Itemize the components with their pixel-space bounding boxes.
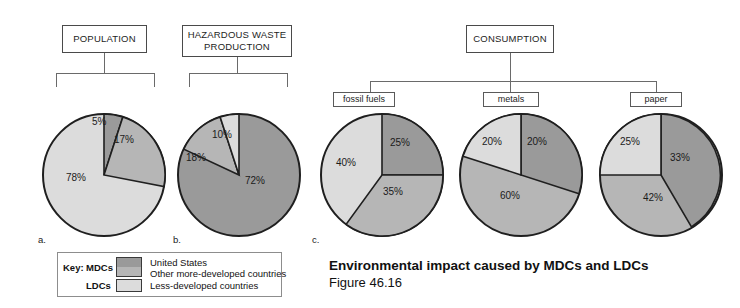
- hazardous-waste-title-box: HAZARDOUS WASTE PRODUCTION: [182, 25, 292, 57]
- pie-population-value-other-mdcs: 17%: [114, 134, 134, 145]
- consumption-drop-fossil: [370, 81, 371, 92]
- population-stem: [104, 53, 105, 73]
- pie-metals-value-other-mdcs: 60%: [500, 190, 520, 201]
- pie-fossil-fuels-svg: [319, 112, 445, 238]
- key-text-united-states: United States: [150, 257, 207, 269]
- key-swatch-ldcs: [116, 279, 142, 292]
- consumption-stem: [510, 53, 511, 81]
- pie-paper-value-us: 33%: [670, 152, 690, 163]
- key-swatch-united-states: [117, 258, 141, 267]
- figure-canvas: POPULATION HAZARDOUS WASTE PRODUCTION CO…: [0, 0, 740, 308]
- subcategory-box-metals: metals: [483, 92, 539, 107]
- key-text-ldcs: Less-developed countries: [150, 280, 258, 292]
- key-swatch-mdcs: [116, 257, 142, 277]
- pie-paper-value-ldcs: 25%: [620, 136, 640, 147]
- consumption-crossbar: [370, 81, 656, 82]
- pie-population-value-us: 5%: [92, 116, 106, 127]
- subcategory-label-fossil-fuels: fossil fuels: [343, 94, 385, 105]
- pie-hazardous-waste-value-other-mdcs: 18%: [186, 152, 206, 163]
- subcategory-label-metals: metals: [498, 94, 525, 105]
- pie-hazardous-waste-svg: [176, 112, 302, 238]
- key-label-ldcs: LDCs: [86, 280, 111, 291]
- pie-chart-metals: [458, 112, 584, 238]
- figure-caption-title: Environmental impact caused by MDCs and …: [329, 258, 649, 273]
- hazardous-waste-title: HAZARDOUS WASTE PRODUCTION: [183, 29, 291, 53]
- pie-metals-svg: [458, 112, 584, 238]
- hazardous-waste-crossbar: [189, 73, 287, 74]
- consumption-drop-metals: [510, 81, 511, 92]
- population-drop-left: [56, 73, 57, 87]
- key-swatch-other-mdcs: [117, 267, 141, 276]
- pie-chart-hazardous-waste: [176, 112, 302, 238]
- pie-chart-paper: [598, 112, 724, 238]
- pie-fossil-fuels-letter: c.: [312, 234, 319, 245]
- pie-population-value-ldcs: 78%: [66, 172, 86, 183]
- key-label-mdcs: MDCs: [86, 262, 113, 273]
- population-title: POPULATION: [73, 33, 136, 45]
- pie-fossil-fuels-value-other-mdcs: 35%: [383, 186, 403, 197]
- consumption-title: CONSUMPTION: [473, 33, 546, 45]
- figure-caption-number: Figure 46.16: [329, 275, 402, 290]
- pie-paper-value-other-mdcs: 42%: [643, 192, 663, 203]
- pie-fossil-fuels-value-ldcs: 40%: [336, 157, 356, 168]
- pie-hazardous-waste-value-us: 72%: [245, 175, 265, 186]
- population-crossbar: [56, 73, 154, 74]
- pie-metals-value-ldcs: 20%: [482, 136, 502, 147]
- hazardous-waste-drop-right: [287, 73, 288, 87]
- pie-hazardous-waste-value-ldcs: 10%: [212, 129, 232, 140]
- subcategory-box-paper: paper: [630, 92, 682, 107]
- pie-chart-population: [41, 112, 167, 238]
- consumption-drop-paper: [656, 81, 657, 92]
- population-title-box: POPULATION: [62, 25, 147, 53]
- subcategory-box-fossil-fuels: fossil fuels: [333, 92, 395, 107]
- pie-fossil-fuels-value-us: 25%: [390, 137, 410, 148]
- pie-hazardous-waste-letter: b.: [173, 234, 181, 245]
- hazardous-waste-drop-left: [189, 73, 190, 87]
- pie-metals-value-us: 20%: [527, 136, 547, 147]
- pie-population-svg: [41, 112, 167, 238]
- subcategory-label-paper: paper: [644, 94, 667, 105]
- key-title: Key:: [63, 262, 84, 273]
- pie-population-letter: a.: [38, 234, 46, 245]
- consumption-title-box: CONSUMPTION: [466, 25, 554, 53]
- key-text-other-mdcs: Other more-developed countries: [150, 268, 286, 280]
- hazardous-waste-stem: [237, 57, 238, 73]
- pie-chart-fossil-fuels: [319, 112, 445, 238]
- pie-paper-svg: [598, 112, 724, 238]
- population-drop-right: [154, 73, 155, 87]
